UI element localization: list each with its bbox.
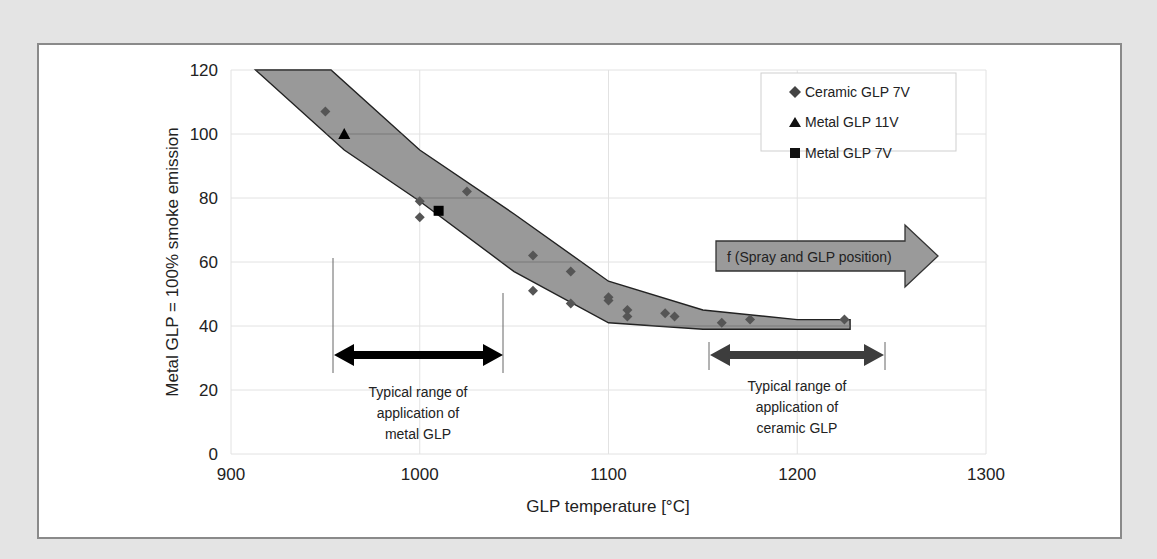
svg-text:Typical range of: Typical range of [369, 384, 468, 400]
x-tick-label: 1200 [778, 465, 816, 484]
metal-range: Typical range of application of metal GL… [333, 258, 503, 442]
chart: 0204060801001209001000110012001300 Ceram… [0, 0, 1157, 559]
x-tick-label: 1000 [401, 465, 439, 484]
legend-metal-11v: Metal GLP 11V [805, 114, 899, 130]
x-tick-label: 1100 [590, 465, 627, 484]
arrow-spray-glp: f (Spray and GLP position) [716, 225, 938, 287]
svg-text:ceramic GLP: ceramic GLP [757, 420, 838, 436]
square-icon [790, 148, 800, 158]
diamond-marker [528, 286, 538, 296]
square-marker [434, 206, 444, 216]
svg-text:application of: application of [756, 399, 839, 415]
y-tick-label: 20 [199, 381, 218, 400]
arrow-spray-glp-label: f (Spray and GLP position) [727, 249, 892, 265]
y-tick-label: 120 [190, 61, 218, 80]
y-tick-label: 0 [209, 445, 218, 464]
svg-text:application of: application of [377, 405, 460, 421]
ceramic-range: Typical range of application of ceramic … [709, 342, 885, 436]
double-arrow-icon [334, 344, 503, 366]
legend: Ceramic GLP 7V Metal GLP 11V Metal GLP 7… [761, 73, 956, 161]
x-tick-label: 900 [217, 465, 245, 484]
legend-ceramic-7v: Ceramic GLP 7V [805, 84, 910, 100]
x-tick-label: 1300 [967, 465, 1005, 484]
y-tick-label: 60 [199, 253, 218, 272]
y-tick-label: 80 [199, 189, 218, 208]
svg-text:Typical range of: Typical range of [748, 378, 847, 394]
y-tick-label: 100 [190, 125, 218, 144]
legend-metal-7v: Metal GLP 7V [805, 145, 893, 161]
svg-text:metal GLP: metal GLP [385, 426, 451, 442]
y-tick-label: 40 [199, 317, 218, 336]
y-axis-label: Metal GLP = 100% smoke emission [163, 127, 182, 396]
x-axis-label: GLP temperature [°C] [526, 497, 689, 516]
diamond-marker [415, 212, 425, 222]
